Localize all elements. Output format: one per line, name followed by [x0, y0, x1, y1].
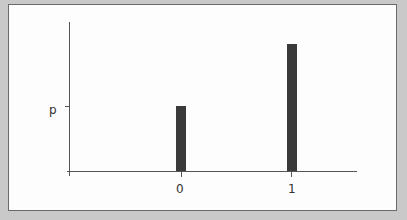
x-tick-label-0: 0 — [176, 182, 184, 196]
x-tick-label-1: 1 — [288, 182, 296, 196]
bar-0 — [176, 106, 186, 171]
y-tick-label-p: p — [49, 103, 57, 117]
bar-1 — [287, 44, 297, 171]
bar-chart: p 0 1 — [0, 0, 407, 220]
